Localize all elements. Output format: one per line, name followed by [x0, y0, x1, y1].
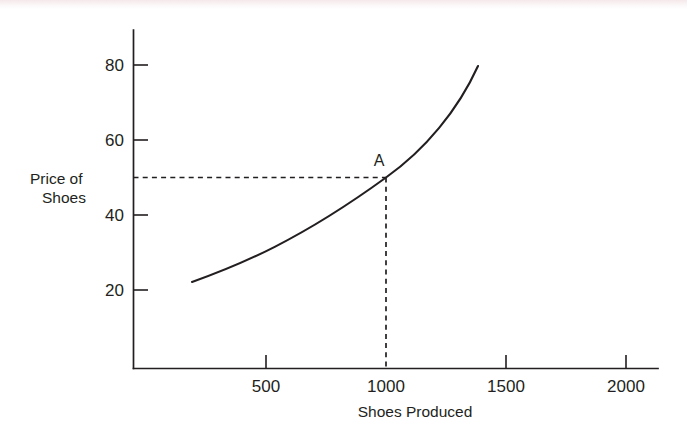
x-tick-marks [266, 355, 626, 369]
x-tick-label-1000: 1000 [367, 377, 405, 396]
x-tick-label-1500: 1500 [487, 377, 525, 396]
y-tick-label-40: 40 [105, 206, 124, 225]
chart-svg: 80 60 40 20 500 1000 1500 2000 A Price o… [0, 0, 687, 439]
y-tick-label-20: 20 [105, 281, 124, 300]
supply-curve-figure: 80 60 40 20 500 1000 1500 2000 A Price o… [0, 0, 687, 439]
x-tick-label-2000: 2000 [607, 377, 645, 396]
x-tick-label-500: 500 [252, 377, 280, 396]
y-tick-label-60: 60 [105, 131, 124, 150]
y-tick-label-80: 80 [105, 56, 124, 75]
y-axis-title-line2: Shoes [42, 189, 86, 206]
y-axis-title-line1: Price of [30, 170, 83, 187]
x-axis-title: Shoes Produced [358, 403, 473, 420]
annotation-label-a: A [374, 152, 385, 169]
supply-curve-path [192, 66, 478, 282]
